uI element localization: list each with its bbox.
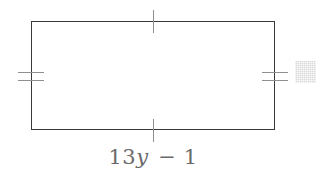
top-side-tick-mark [153, 10, 154, 33]
bottom-side-length-label: 13y − 1 [0, 147, 306, 168]
right-side-tick-mark-upper [262, 72, 288, 73]
left-side-tick-mark-upper [18, 72, 44, 73]
label-variable: y [136, 145, 148, 169]
rectangle-shape [31, 21, 275, 130]
right-side-tick-mark-lower [262, 80, 288, 81]
left-side-tick-mark-lower [18, 80, 44, 81]
scan-artifact-block [295, 61, 316, 83]
label-constant: 1 [184, 145, 198, 169]
label-operator: − [158, 145, 176, 169]
label-coefficient: 13 [108, 145, 136, 169]
geometry-figure-canvas: 13y − 1 [0, 0, 326, 188]
bottom-side-tick-mark [153, 119, 154, 142]
